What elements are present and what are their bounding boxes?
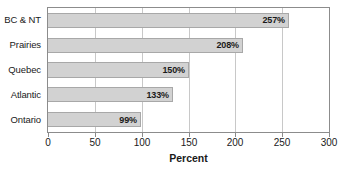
bar-value-label: 99% [119, 115, 137, 125]
bar-value-label: 133% [146, 90, 169, 100]
bar-series: 257%208%150%133%99% [48, 8, 329, 132]
x-axis-title: Percent [47, 152, 330, 164]
tick-label: 50 [89, 137, 100, 148]
bar: 133% [48, 87, 173, 102]
tick-label: 150 [181, 137, 198, 148]
bar: 257% [48, 13, 289, 28]
tick-label: 200 [227, 137, 244, 148]
bar-value-label: 150% [162, 65, 185, 75]
y-axis-category-labels: BC & NTPrairiesQuebecAtlanticOntario [0, 7, 44, 133]
bar: 150% [48, 62, 189, 77]
bar-row: 99% [48, 112, 329, 127]
category-label: Ontario [11, 113, 41, 124]
tick-label: 100 [134, 137, 151, 148]
bar-chart: BC & NTPrairiesQuebecAtlanticOntario 257… [0, 0, 353, 171]
category-label: BC & NT [4, 14, 41, 25]
category-label: Prairies [10, 39, 41, 50]
bar-row: 208% [48, 38, 329, 53]
bar-row: 133% [48, 87, 329, 102]
bar-row: 257% [48, 13, 329, 28]
bar-row: 150% [48, 62, 329, 77]
x-axis-tick-labels: 050100150200250300 [47, 137, 330, 151]
plot-area: 257%208%150%133%99% [47, 7, 330, 133]
tick-label: 0 [45, 137, 51, 148]
bar-value-label: 257% [262, 15, 285, 25]
category-label: Quebec [8, 64, 41, 75]
category-label: Atlantic [11, 88, 41, 99]
bar-value-label: 208% [216, 40, 239, 50]
bar: 208% [48, 38, 243, 53]
tick-label: 250 [274, 137, 291, 148]
chart-title [0, 0, 353, 1]
bar: 99% [48, 112, 141, 127]
tick-label: 300 [321, 137, 338, 148]
